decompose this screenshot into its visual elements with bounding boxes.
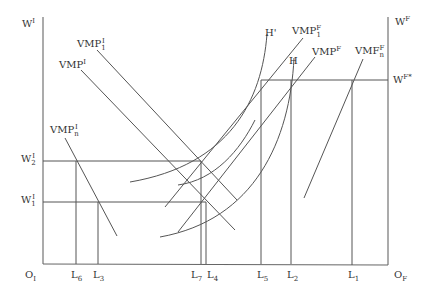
l5-label: L5	[257, 270, 268, 283]
vmfn-f-label: VMFFn	[355, 45, 384, 58]
vmpn-i-curve	[65, 138, 117, 236]
l3-label: L3	[93, 270, 104, 283]
l6-label: L6	[71, 270, 82, 283]
vmpn-i-label: VMPIn	[50, 124, 79, 137]
l4-label: L4	[207, 270, 218, 283]
vmp-f-label: VMPF	[312, 46, 341, 57]
l2-label: L2	[287, 270, 298, 283]
right-axis-label: WF	[395, 16, 410, 27]
vmp1-f-label: VMPF1	[292, 25, 321, 38]
left-axis-label: WI	[22, 18, 35, 29]
labor-axis	[43, 264, 388, 265]
l7-label: L7	[191, 270, 202, 283]
w2-label: WI2	[21, 153, 36, 166]
vmp-f-curve	[178, 57, 315, 232]
h-upper-branch-curve	[178, 120, 255, 185]
vmp1-i-label: VMPI1	[77, 38, 106, 51]
vmp-i-label: VMPI	[59, 59, 86, 70]
l1-label: L1	[348, 270, 359, 283]
origin-formal-label: OF	[394, 270, 407, 283]
w1-label: WI1	[21, 194, 36, 207]
vmp1-i-curve	[97, 50, 237, 200]
vmp1-f-curve	[165, 38, 303, 207]
h-prime-label: H'	[265, 28, 276, 38]
wage-fstar-label: WF*	[393, 74, 412, 85]
origin-informal-label: OI	[25, 270, 36, 283]
h-label: H	[289, 56, 298, 66]
h-curve	[160, 58, 294, 237]
